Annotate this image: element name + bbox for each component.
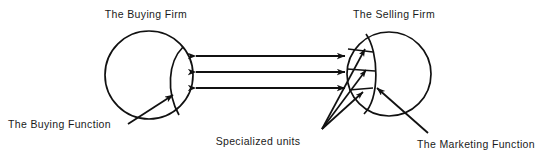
label-selling-firm: The Selling Firm (332, 8, 456, 21)
selling-firm-shape (347, 32, 431, 116)
label-marketing-function: The Marketing Function – the marketing d… (412, 112, 540, 158)
exchange-arrows (196, 56, 345, 88)
label-specialized-units-line1: Specialized units (196, 135, 320, 148)
label-specialized-units: Specialized units within the marketing d… (196, 109, 320, 158)
buying-firm-shape (105, 31, 193, 119)
label-buying-firm: The Buying Firm (84, 8, 208, 21)
label-buying-function: The Buying Function (8, 118, 134, 131)
label-marketing-function-line1: The Marketing Function (412, 138, 540, 151)
diagram-canvas: The Buying Firm The Selling Firm The Buy… (0, 0, 540, 158)
